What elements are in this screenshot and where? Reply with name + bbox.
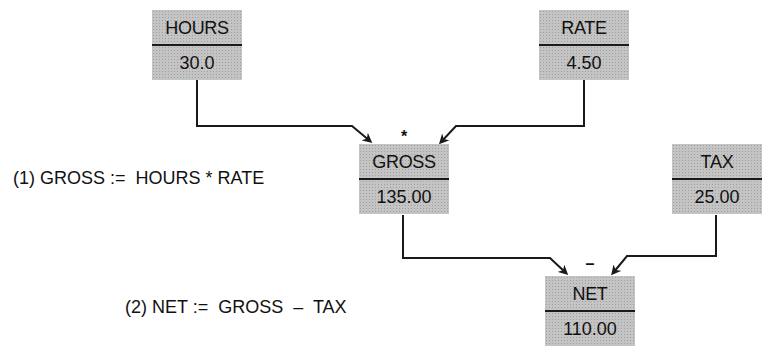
variable-value: 4.50	[539, 46, 629, 80]
edge-hours-to-gross	[197, 80, 370, 141]
formula-gross: (1) GROSS := HOURS * RATE	[13, 168, 264, 189]
variable-name: RATE	[539, 10, 629, 44]
variable-name: TAX	[672, 144, 762, 178]
variable-value: 135.00	[359, 180, 449, 214]
variable-value: 110.00	[545, 312, 635, 346]
variable-box-tax: TAX 25.00	[672, 144, 762, 214]
subtract-operator: –	[580, 255, 600, 273]
dataflow-diagram: HOURS 30.0 RATE 4.50 * GROSS 135.00 TAX …	[0, 0, 773, 357]
variable-box-gross: GROSS 135.00	[359, 144, 449, 214]
edge-rate-to-gross	[441, 79, 584, 142]
variable-name: NET	[545, 276, 635, 310]
variable-value: 25.00	[672, 180, 762, 214]
variable-value: 30.0	[152, 46, 242, 80]
edge-gross-to-net	[403, 215, 566, 273]
variable-box-rate: RATE 4.50	[539, 10, 629, 80]
formula-net: (2) NET := GROSS – TAX	[125, 297, 347, 318]
variable-name: GROSS	[359, 144, 449, 178]
edge-tax-to-net	[613, 215, 716, 273]
variable-box-hours: HOURS 30.0	[152, 10, 242, 80]
variable-name: HOURS	[152, 10, 242, 44]
variable-box-net: NET 110.00	[545, 276, 635, 346]
